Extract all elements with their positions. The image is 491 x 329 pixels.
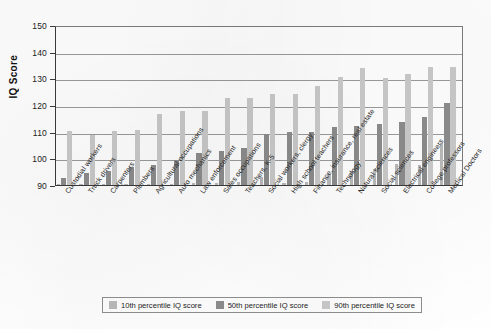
y-axis-tick-label: 110 xyxy=(17,128,47,138)
chart-legend: 10th percentile IQ score50th percentile … xyxy=(102,297,422,313)
bar xyxy=(79,184,82,185)
legend-swatch xyxy=(109,301,117,309)
bar-group xyxy=(146,27,169,185)
y-axis-tick-label: 140 xyxy=(17,48,47,58)
legend-item: 50th percentile IQ score xyxy=(216,301,309,310)
y-axis-tick-label: 130 xyxy=(17,74,47,84)
bar xyxy=(147,184,150,185)
bar xyxy=(61,178,66,185)
legend-swatch xyxy=(216,301,224,309)
x-axis-tick-labels: Custodial workersTruck driversCarpenters… xyxy=(0,186,491,296)
bar xyxy=(237,182,240,185)
bar xyxy=(157,114,162,185)
y-axis-tick-label: 120 xyxy=(17,101,47,111)
bar xyxy=(225,98,230,185)
bar xyxy=(450,67,455,186)
bar xyxy=(293,94,298,185)
bar xyxy=(428,67,433,186)
bar xyxy=(282,183,285,185)
legend-item: 10th percentile IQ score xyxy=(109,301,202,310)
y-axis-tick-label: 150 xyxy=(17,21,47,31)
y-axis-tick-label: 100 xyxy=(17,154,47,164)
legend-label: 10th percentile IQ score xyxy=(121,301,202,310)
legend-item: 90th percentile IQ score xyxy=(322,301,415,310)
bar xyxy=(383,78,388,185)
bar xyxy=(170,184,173,185)
bar xyxy=(247,98,252,185)
bar xyxy=(102,184,105,185)
bar xyxy=(405,74,410,185)
legend-label: 50th percentile IQ score xyxy=(228,301,309,310)
chart-figure: IQ Score 15014013012011010090 Custodial … xyxy=(0,0,491,329)
legend-swatch xyxy=(322,301,330,309)
bar xyxy=(270,94,275,185)
bar xyxy=(192,183,195,185)
bar xyxy=(338,77,343,185)
bar xyxy=(124,184,127,185)
bar xyxy=(215,183,218,185)
bar xyxy=(315,86,320,185)
bar xyxy=(57,184,60,185)
bar-group xyxy=(56,27,79,185)
legend-label: 90th percentile IQ score xyxy=(334,301,415,310)
bar xyxy=(305,182,308,185)
